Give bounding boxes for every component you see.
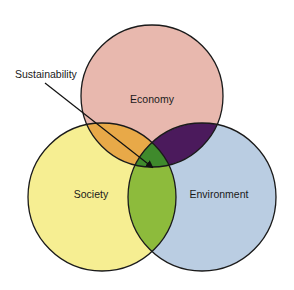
economy-label: Economy <box>130 93 175 105</box>
sustainability-label: Sustainability <box>15 68 78 80</box>
environment-label: Environment <box>190 188 249 200</box>
venn-diagram: Economy Society Environment Sustainabili… <box>0 0 294 290</box>
society-label: Society <box>74 188 109 200</box>
